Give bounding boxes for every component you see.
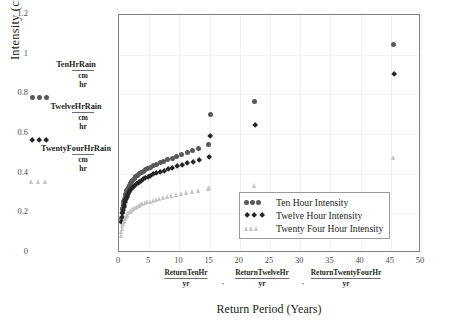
marker-circle <box>206 142 211 147</box>
marker-triangle <box>174 192 178 197</box>
marker-triangle <box>207 185 211 190</box>
x-tick-label: 15 <box>197 256 221 265</box>
marker-circle <box>190 148 195 153</box>
marker-diamond <box>252 122 258 128</box>
legend-marker <box>244 226 272 231</box>
variable-marker-sample <box>30 91 122 100</box>
legend-item[interactable]: Twelve Hour Intensity <box>244 209 383 222</box>
marker-circle <box>250 200 255 205</box>
unit-numerator: cm <box>72 70 94 80</box>
y-tick-label: 0.4 <box>2 168 28 177</box>
marker-circle <box>196 146 201 151</box>
variable-marker-sample <box>30 175 122 184</box>
unit-denominator: hr <box>72 122 94 131</box>
unit-denominator: hr <box>72 164 94 173</box>
marker-diamond <box>251 212 257 218</box>
marker-triangle <box>249 226 253 231</box>
marker-circle <box>179 152 184 157</box>
x-tick-label: 5 <box>136 256 160 265</box>
vertical-gridline <box>421 15 422 251</box>
unit-numerator: cm <box>72 112 94 122</box>
chart-legend[interactable]: Ten Hour IntensityTwelve Hour IntensityT… <box>239 192 390 239</box>
legend-label: Twenty Four Hour Intensity <box>272 223 383 234</box>
marker-triangle <box>244 226 248 231</box>
marker-circle <box>30 95 35 100</box>
marker-circle <box>252 99 257 104</box>
variable-name: TwentyFourHrRain <box>30 144 122 154</box>
legend-marker <box>244 213 272 217</box>
marker-diamond <box>206 154 212 160</box>
y-tick-label: 0.2 <box>2 207 28 216</box>
x-variable-denominator: yr <box>164 279 207 289</box>
marker-triangle <box>43 179 47 184</box>
x-axis-title: Return Period (Years) <box>118 302 420 317</box>
marker-triangle <box>190 189 194 194</box>
legend-item[interactable]: Twenty Four Hour Intensity <box>244 222 383 235</box>
label-separator: , <box>302 277 304 286</box>
variable-legend: TenHrRaincmhrTwelveHrRaincmhrTwentyFourH… <box>30 60 122 186</box>
vertical-gridline <box>149 15 150 251</box>
x-tick-label: 35 <box>317 256 341 265</box>
y-tick-label: 0 <box>2 247 28 256</box>
x-tick-label: 10 <box>166 256 190 265</box>
horizontal-gridline <box>119 134 419 135</box>
x-variable-name: ReturnTenHr <box>164 268 207 279</box>
marker-triangle <box>391 155 395 160</box>
x-tick-label: 40 <box>348 256 372 265</box>
legend-label: Ten Hour Intensity <box>272 197 348 208</box>
marker-circle <box>44 95 49 100</box>
marker-circle <box>208 112 213 117</box>
x-variable-denominator: yr <box>311 279 381 289</box>
unit-numerator: cm <box>72 154 94 164</box>
chart-figure: Intensity (cm/hr) TenHrRaincmhrTwelveHrR… <box>0 0 452 330</box>
vertical-gridline <box>391 15 392 251</box>
marker-circle <box>391 42 396 47</box>
x-tick-label: 45 <box>378 256 402 265</box>
x-tick-label: 20 <box>227 256 251 265</box>
x-variable-name: ReturnTwelveHr <box>235 268 289 279</box>
x-variable-name: ReturnTwentyFourHr <box>311 268 381 279</box>
unit-fraction: cmhr <box>72 112 94 131</box>
marker-diamond <box>244 212 250 218</box>
variable-marker-sample <box>30 133 122 142</box>
marker-triangle <box>29 179 33 184</box>
horizontal-gridline <box>119 94 419 95</box>
vertical-gridline <box>179 15 180 251</box>
y-tick-label: 0.6 <box>2 128 28 137</box>
marker-circle <box>185 150 190 155</box>
legend-item[interactable]: Ten Hour Intensity <box>244 196 383 209</box>
x-tick-label: 50 <box>408 256 432 265</box>
unit-denominator: hr <box>72 80 94 89</box>
variable-legend-item: TwelveHrRaincmhr <box>30 102 122 142</box>
marker-circle <box>244 200 249 205</box>
marker-diamond <box>29 137 35 143</box>
y-tick-label: 0.8 <box>2 88 28 97</box>
marker-diamond <box>196 157 202 163</box>
label-separator: , <box>222 277 224 286</box>
y-tick-label: 1 <box>2 49 28 58</box>
y-tick-label: 1.2 <box>2 9 28 18</box>
marker-diamond <box>259 212 265 218</box>
variable-legend-item: TwentyFourHrRaincmhr <box>30 144 122 184</box>
legend-label: Twelve Hour Intensity <box>272 210 362 221</box>
unit-fraction: cmhr <box>72 154 94 173</box>
marker-triangle <box>179 191 183 196</box>
variable-legend-item: TenHrRaincmhr <box>30 60 122 100</box>
x-tick-label: 0 <box>106 256 130 265</box>
x-variable-label: ReturnTwentyFourHryr <box>311 268 381 289</box>
x-variable-denominator: yr <box>235 279 289 289</box>
marker-triangle <box>169 193 173 198</box>
legend-marker <box>244 200 272 205</box>
x-variable-label: ReturnTenHryr <box>164 268 207 289</box>
variable-name: TwelveHrRain <box>30 102 122 112</box>
marker-circle <box>256 200 261 205</box>
marker-triangle <box>254 226 258 231</box>
x-variable-label: ReturnTwelveHryr <box>235 268 289 289</box>
marker-triangle <box>252 183 256 188</box>
x-tick-label: 30 <box>287 256 311 265</box>
variable-name: TenHrRain <box>30 60 122 70</box>
marker-triangle <box>196 188 200 193</box>
marker-triangle <box>36 179 40 184</box>
x-variable-labels: ReturnTenHryr,ReturnTwelveHryr,ReturnTwe… <box>118 268 428 298</box>
horizontal-gridline <box>119 55 419 56</box>
